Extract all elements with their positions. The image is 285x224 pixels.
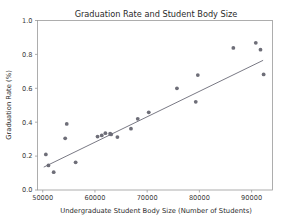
scatter-point	[100, 134, 104, 138]
scatter-point	[147, 110, 151, 114]
scatter-point	[194, 100, 198, 104]
scatter-point	[136, 117, 140, 121]
scatter-point	[231, 46, 235, 50]
scatter-point	[116, 135, 120, 139]
y-tick-label: 0.8	[22, 51, 33, 59]
scatter-point	[74, 160, 78, 164]
scatter-point	[259, 48, 263, 52]
y-tick-label: 0.2	[22, 152, 33, 160]
scatter-point	[96, 135, 100, 139]
scatter-point	[196, 73, 200, 77]
scatter-point	[65, 122, 69, 126]
x-tick-label: 90000	[241, 194, 262, 202]
scatter-plot: Graduation Rate and Student Body Size 50…	[0, 0, 285, 224]
x-axis-label: Undergraduate Student Body Size (Number …	[60, 207, 252, 215]
scatter-point	[103, 131, 107, 135]
y-tick-label: 1.0	[22, 17, 33, 25]
x-tick-label: 50000	[32, 194, 53, 202]
y-tick-label: 0.6	[22, 85, 33, 93]
scatter-point	[44, 153, 48, 157]
y-tick-label: 0.0	[22, 186, 33, 194]
scatter-point	[52, 170, 56, 174]
trend-line	[44, 60, 263, 167]
axes-frame	[38, 21, 273, 191]
x-tick-label: 60000	[84, 194, 105, 202]
scatter-point	[129, 127, 133, 131]
scatter-point	[175, 86, 179, 90]
y-axis-ticks: 0.00.20.40.60.81.0	[22, 17, 38, 195]
scatter-point	[63, 136, 67, 140]
x-tick-label: 80000	[189, 194, 210, 202]
scatter-point	[262, 73, 266, 77]
chart-title: Graduation Rate and Student Body Size	[75, 9, 238, 19]
x-tick-label: 70000	[137, 194, 158, 202]
data-points	[44, 41, 266, 174]
y-axis-label: Graduation Rate (%)	[5, 70, 13, 140]
scatter-point	[254, 41, 258, 45]
y-tick-label: 0.4	[22, 119, 33, 127]
x-axis-ticks: 5000060000700008000090000	[32, 190, 262, 202]
chart-figure: Graduation Rate and Student Body Size 50…	[0, 0, 285, 224]
